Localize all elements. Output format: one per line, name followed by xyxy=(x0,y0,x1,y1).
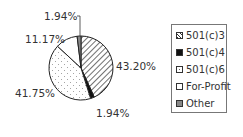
legend: 501(c)3 501(c)4 501(c)6 For-Profit Other xyxy=(171,24,227,113)
black-swatch-icon xyxy=(176,49,183,56)
legend-item-501c3: 501(c)3 xyxy=(176,29,225,41)
legend-item-501c4: 501(c)4 xyxy=(176,46,225,58)
legend-item-501c6: 501(c)6 xyxy=(176,63,225,75)
white-swatch-icon xyxy=(176,83,183,90)
label-501c6: 41.75% xyxy=(15,88,55,99)
legend-item-for-profit: For-Profit xyxy=(176,80,231,92)
label-for-profit: 11.17% xyxy=(25,34,65,45)
label-other: 1.94% xyxy=(44,11,77,22)
dotted-swatch-icon xyxy=(176,66,183,73)
label-501c4: 1.94% xyxy=(96,108,129,119)
gray-swatch-icon xyxy=(176,100,183,107)
label-501c3: 43.20% xyxy=(116,61,156,72)
hatch-swatch-icon xyxy=(176,32,183,39)
legend-item-other: Other xyxy=(176,97,214,109)
